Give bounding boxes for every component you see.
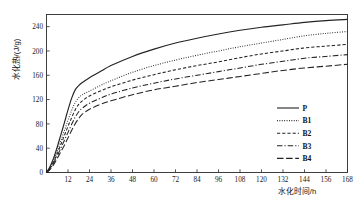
legend-item-b3[interactable]: B3 <box>277 142 312 151</box>
y-tick-label: 160 <box>32 72 43 80</box>
legend-label-b1: B1 <box>303 116 312 125</box>
x-tick-label: 36 <box>107 176 115 184</box>
y-axis-label: 水化热/(J/g) <box>11 38 21 80</box>
x-tick-label: 156 <box>321 176 332 184</box>
x-tick-label: 144 <box>299 176 310 184</box>
x-tick-label: 60 <box>150 176 158 184</box>
x-tick-label: 48 <box>129 176 137 184</box>
x-tick-label: 24 <box>86 176 94 184</box>
x-tick-label: 72 <box>172 176 180 184</box>
x-tick-label: 96 <box>215 176 223 184</box>
y-tick-label: 0 <box>39 169 43 177</box>
x-tick-label: 84 <box>193 176 201 184</box>
legend-item-b2[interactable]: B2 <box>277 129 312 138</box>
legend-item-p[interactable]: P <box>277 104 308 113</box>
legend-label-b2: B2 <box>303 129 312 138</box>
hydration-heat-chart: 1224364860728496108120132144156168040801… <box>0 0 364 209</box>
legend-label-p: P <box>303 104 308 113</box>
legend-item-b4[interactable]: B4 <box>277 154 312 163</box>
x-tick-label: 120 <box>256 176 267 184</box>
legend-label-b3: B3 <box>303 142 312 151</box>
y-tick-label: 40 <box>36 145 44 153</box>
legend-label-b4: B4 <box>303 154 312 163</box>
y-axis: 04080120160200240 <box>32 23 49 177</box>
y-tick-label: 200 <box>32 48 43 56</box>
legend-item-b1[interactable]: B1 <box>277 116 312 125</box>
legend: PB1B2B3B4 <box>277 104 312 163</box>
x-axis-label: 水化时间/h <box>278 186 317 196</box>
x-axis: 1224364860728496108120132144156168 <box>47 169 354 184</box>
chart-canvas: 1224364860728496108120132144156168040801… <box>0 0 364 209</box>
y-tick-label: 120 <box>32 96 43 104</box>
y-tick-label: 240 <box>32 23 43 31</box>
x-tick-label: 168 <box>342 176 353 184</box>
x-tick-label: 108 <box>235 176 246 184</box>
series-line-b1 <box>47 32 348 173</box>
x-tick-label: 132 <box>278 176 289 184</box>
y-tick-label: 80 <box>36 121 44 129</box>
x-tick-label: 12 <box>64 176 72 184</box>
